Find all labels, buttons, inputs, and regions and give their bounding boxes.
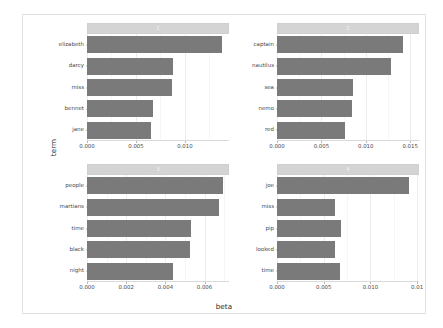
x-axis-tick-label: 0.015: [402, 144, 417, 149]
x-axis: 0.0000.0050.010: [87, 141, 229, 154]
bar: [277, 100, 352, 117]
facet-body: joemisspiplookedtime: [243, 175, 419, 282]
x-axis-tick-label: 0.004: [158, 285, 173, 290]
x-axis-tick-label: 0.000: [269, 144, 284, 149]
figure-canvas: term 1elizabethdarcymissbennetjane0.0000…: [0, 0, 443, 328]
y-axis-tick-label: nautilus: [252, 63, 274, 69]
y-axis-tick-label: people: [65, 183, 84, 189]
facet-strip-label: 3: [87, 164, 229, 175]
y-axis-tick-labels: peoplemartianstimeblacknight: [53, 175, 87, 282]
bar: [277, 241, 335, 258]
bar: [87, 241, 190, 258]
x-axis-tick-label: 0.006: [197, 285, 212, 290]
bar: [87, 220, 191, 237]
y-axis-tick-label: bennet: [65, 106, 84, 112]
facet-panel-2: 2captainnautilusseanemored0.0000.0050.01…: [243, 23, 419, 154]
y-axis-tick-label: captain: [254, 42, 274, 48]
bar: [87, 36, 222, 53]
x-axis-tick-label: 0.000: [79, 285, 94, 290]
facet-body: peoplemartianstimeblacknight: [53, 175, 229, 282]
x-axis-tick-label: 0.005: [128, 144, 143, 149]
bar: [277, 122, 345, 139]
x-axis-tick-label: 0.000: [79, 144, 94, 149]
facet-grid: 1elizabethdarcymissbennetjane0.0000.0050…: [53, 23, 419, 295]
x-axis-tick-label: 0.010: [363, 285, 378, 290]
plot-area: term 1elizabethdarcymissbennetjane0.0000…: [23, 15, 425, 313]
x-axis-tick-label: 0.002: [118, 285, 133, 290]
y-axis-tick-label: night: [70, 269, 84, 275]
facet-body: captainnautilusseanemored: [243, 34, 419, 141]
y-axis-tick-label: miss: [261, 204, 274, 210]
y-axis-tick-labels: captainnautilusseanemored: [243, 34, 277, 141]
x-axis: 0.0000.0050.0100.015: [277, 141, 419, 154]
bar: [87, 122, 151, 139]
gridline-major: [410, 34, 411, 141]
x-axis-tick-label: 0.005: [316, 285, 331, 290]
y-axis-tick-label: joe: [266, 183, 274, 189]
y-axis-tick-label: sea: [264, 85, 274, 91]
x-axis-tick-label: 0.005: [314, 144, 329, 149]
x-axis-tick-label: 0.000: [269, 285, 284, 290]
y-axis-tick-label: darcy: [69, 63, 84, 69]
y-axis-tick-label: pip: [265, 226, 274, 232]
facet-body: elizabethdarcymissbennetjane: [53, 34, 229, 141]
bar: [87, 58, 173, 75]
bar: [87, 79, 172, 96]
panel-plot-region: [87, 34, 229, 141]
bar: [277, 36, 403, 53]
y-axis-tick-label: nemo: [258, 106, 274, 112]
bar: [277, 263, 340, 280]
gridline-major: [417, 175, 418, 282]
gridline-minor: [224, 175, 225, 282]
facet-strip-label: 1: [87, 23, 229, 34]
bar: [87, 199, 219, 216]
panel-plot-region: [277, 34, 419, 141]
y-axis-tick-label: miss: [71, 85, 84, 91]
bar: [277, 79, 353, 96]
bar: [277, 58, 391, 75]
y-axis-tick-label: time: [72, 226, 84, 232]
x-axis-tick-label: 0.01: [411, 285, 423, 290]
x-axis-title: beta: [23, 302, 425, 311]
y-axis-tick-label: time: [262, 269, 274, 275]
panel-plot-region: [277, 175, 419, 282]
facet-panel-3: 3peoplemartianstimeblacknight0.0000.0020…: [53, 164, 229, 295]
x-axis: 0.0000.0050.0100.01: [277, 282, 419, 295]
panel-plot-region: [87, 175, 229, 282]
y-axis-tick-label: elizabeth: [59, 42, 84, 48]
y-axis-tick-label: black: [69, 247, 84, 253]
y-axis-tick-labels: elizabethdarcymissbennetjane: [53, 34, 87, 141]
facet-panel-4: 4joemisspiplookedtime0.0000.0050.0100.01: [243, 164, 419, 295]
y-axis-tick-label: martians: [60, 204, 84, 210]
facet-panel-1: 1elizabethdarcymissbennetjane0.0000.0050…: [53, 23, 229, 154]
y-axis-tick-label: red: [265, 128, 274, 134]
bar: [87, 177, 223, 194]
facet-strip-label: 4: [277, 164, 419, 175]
bar: [277, 177, 409, 194]
bar: [87, 263, 173, 280]
y-axis-tick-label: jane: [72, 128, 84, 134]
y-axis-tick-label: looked: [256, 247, 274, 253]
x-axis-tick-label: 0.010: [358, 144, 373, 149]
bar: [277, 220, 341, 237]
plot-border: term 1elizabethdarcymissbennetjane0.0000…: [22, 14, 426, 314]
bar: [87, 100, 153, 117]
x-axis: 0.0000.0020.0040.006: [87, 282, 229, 295]
y-axis-tick-labels: joemisspiplookedtime: [243, 175, 277, 282]
facet-strip-label: 2: [277, 23, 419, 34]
x-axis-tick-label: 0.010: [177, 144, 192, 149]
bar: [277, 199, 335, 216]
